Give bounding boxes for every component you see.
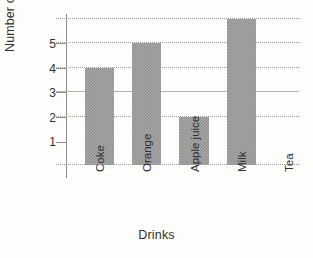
y-tick-label-1: 1 <box>36 136 56 148</box>
bar-milk <box>227 19 256 165</box>
y-tick-mark-5 <box>56 43 67 44</box>
x-axis-title: Drinks <box>0 228 313 242</box>
gridline-5-5 <box>56 18 299 19</box>
x-category-label-orange: Orange <box>140 134 154 172</box>
y-axis-title: Number of children <box>0 0 20 52</box>
y-tick-label-3: 3 <box>36 87 56 99</box>
plot-area <box>66 18 299 165</box>
y-tick-mark-2 <box>56 117 67 118</box>
y-tick-label-5: 5 <box>36 38 56 50</box>
x-category-label-tea: Tea <box>282 153 296 172</box>
y-tick-label-4: 4 <box>36 63 56 75</box>
y-tick-mark-4 <box>56 68 67 69</box>
x-category-label-apple-juice: Apple juice <box>188 116 202 172</box>
bar-chart: Number of children 1 2 3 4 5 Coke Orange… <box>0 0 313 258</box>
y-tick-label-2: 2 <box>36 112 56 124</box>
x-category-label-coke: Coke <box>93 145 107 172</box>
y-tick-mark-3 <box>56 92 67 93</box>
y-tick-mark-1 <box>56 142 67 143</box>
gridline-4-5 <box>56 42 299 43</box>
x-category-label-milk: Milk <box>235 152 249 172</box>
